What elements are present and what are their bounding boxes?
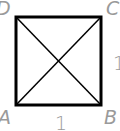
- side-label-right: 1: [113, 52, 120, 74]
- vertex-label-d: D: [0, 0, 11, 19]
- square-diagram: D C A B 1 1: [0, 0, 120, 131]
- side-label-bottom: 1: [55, 112, 67, 131]
- vertex-label-a: A: [0, 106, 11, 128]
- vertex-label-b: B: [104, 106, 117, 128]
- vertex-label-c: C: [106, 0, 120, 19]
